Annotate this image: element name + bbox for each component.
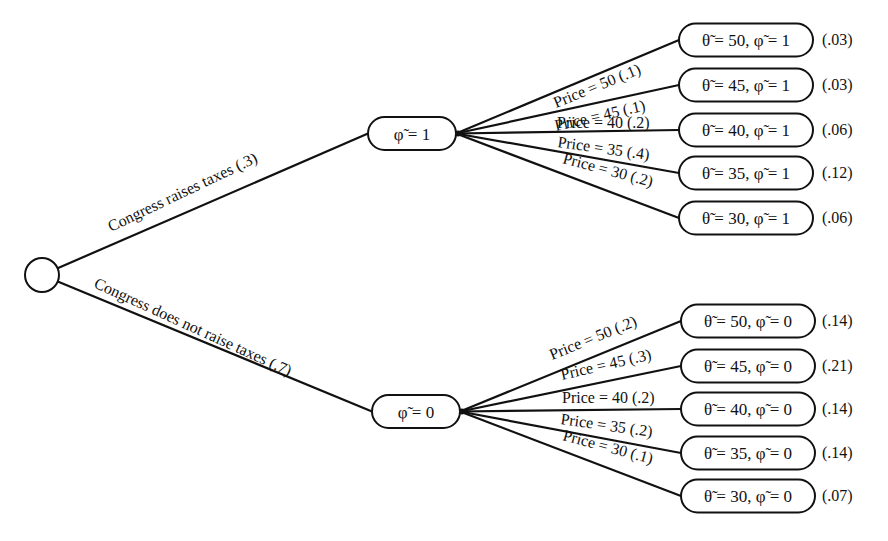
joint-probability-theta-30-phi-1: (.06): [822, 209, 853, 227]
leaf-label-theta-40-phi-1: θ̃ = 40, φ̃ = 1: [702, 121, 790, 140]
label-no-tax-raise: Congress does not raise taxes (.7): [91, 274, 294, 380]
leaf-label-theta-30-phi-0: θ̃ = 30, φ̃ = 0: [704, 487, 792, 506]
edge-no-tax-raise: [58, 281, 372, 411]
leaf-label-theta-40-phi-0: θ̃ = 40, φ̃ = 0: [704, 400, 792, 419]
joint-probability-theta-40-phi-1: (.06): [822, 121, 853, 139]
leaf-label-theta-45-phi-0: θ̃ = 45, φ̃ = 0: [704, 357, 792, 376]
branch-hub-phi-1: [455, 131, 461, 137]
joint-probability-theta-35-phi-0: (.14): [822, 444, 853, 462]
leaf-label-theta-30-phi-1: θ̃ = 30, φ̃ = 1: [702, 209, 790, 228]
leaf-label-theta-35-phi-1: θ̃ = 35, φ̃ = 1: [702, 164, 790, 183]
label-raises-taxes: Congress raises taxes (.3): [105, 149, 260, 236]
joint-probability-theta-50-phi-1: (.03): [822, 31, 853, 49]
leaf-label-theta-50-phi-1: θ̃ = 50, φ̃ = 1: [702, 31, 790, 50]
edge-raises-taxes: [58, 134, 368, 269]
root-chance-node: [25, 258, 59, 292]
joint-probability-theta-50-phi-0: (.14): [822, 312, 853, 330]
nodes-layer: φ̃ = 1θ̃ = 50, φ̃ = 1(.03)θ̃ = 45, φ̃ = …: [25, 24, 853, 513]
leaf-label-theta-35-phi-0: θ̃ = 35, φ̃ = 0: [704, 444, 792, 463]
event-node-phi-0-label: φ̃ = 0: [398, 403, 434, 422]
label-price-40-phi-1: Price = 40 (.2): [557, 114, 650, 132]
event-node-phi-1-label: φ̃ = 1: [394, 125, 430, 144]
probability-tree-diagram: Congress raises taxes (.3)Price = 50 (.1…: [0, 0, 888, 541]
joint-probability-theta-45-phi-0: (.21): [822, 357, 853, 375]
joint-probability-theta-30-phi-0: (.07): [822, 487, 853, 505]
joint-probability-theta-35-phi-1: (.12): [822, 164, 853, 182]
branch-hub-phi-0: [459, 409, 465, 415]
joint-probability-theta-40-phi-0: (.14): [822, 400, 853, 418]
label-price-40-phi-0: Price = 40 (.2): [562, 389, 655, 407]
joint-probability-theta-45-phi-1: (.03): [822, 76, 853, 94]
leaf-label-theta-45-phi-1: θ̃ = 45, φ̃ = 1: [702, 76, 790, 95]
leaf-label-theta-50-phi-0: θ̃ = 50, φ̃ = 0: [704, 312, 792, 331]
